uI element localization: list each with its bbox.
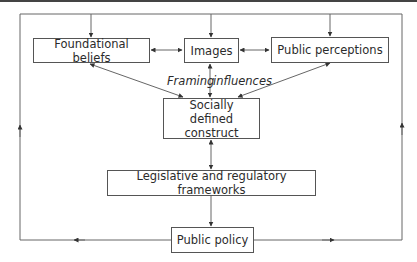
node-images: Images	[184, 38, 239, 63]
node-public-perceptions: Public perceptions	[271, 37, 389, 63]
node-socially-defined-construct: Socially defined construct	[163, 98, 260, 139]
annotation-influences: influences	[213, 74, 272, 88]
node-label: Public policy	[177, 233, 249, 247]
annotation-framing: Framing	[167, 74, 214, 88]
node-label: Foundational beliefs	[34, 37, 149, 65]
node-foundational-beliefs: Foundational beliefs	[33, 38, 150, 63]
node-label: Legislative and regulatory frameworks	[108, 169, 315, 197]
node-label: Socially defined construct	[170, 98, 253, 140]
node-label: Public perceptions	[277, 43, 382, 57]
node-legislative-frameworks: Legislative and regulatory frameworks	[107, 170, 316, 196]
node-label: Images	[190, 44, 232, 58]
node-public-policy: Public policy	[171, 227, 254, 253]
